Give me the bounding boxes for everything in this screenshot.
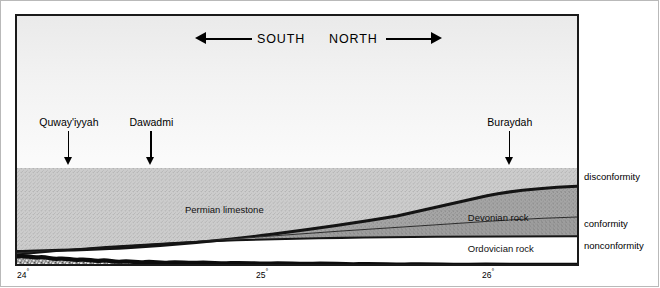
city-label: Buraydah	[487, 116, 532, 128]
unit-label-devonian: Devonian rock	[468, 212, 529, 223]
north-arrow-line	[386, 38, 432, 40]
south-label: SOUTH	[257, 28, 305, 50]
geology-block: Permian limestone Devonian rock Ordovici…	[17, 168, 577, 264]
south-arrow-head-icon	[195, 32, 206, 44]
city-arrow-head-icon	[64, 157, 72, 165]
unit-label-ordovician: Ordovician rock	[468, 243, 534, 254]
longitude-tick-24: 24°	[17, 268, 29, 280]
longitude-tick-26: 26°	[482, 268, 494, 280]
degree-sign: °	[265, 268, 268, 275]
city-arrow-stem	[68, 131, 69, 159]
boundary-label-nonconformity: nonconformity	[584, 240, 644, 251]
degree-sign: °	[491, 268, 494, 275]
unit-label-permian: Permian limestone	[185, 204, 264, 215]
boundary-label-conformity: conformity	[584, 218, 628, 229]
cross-section-figure: SOUTH NORTH Quway'iyyah Dawadmi Buraydah	[15, 14, 579, 266]
city-arrow-head-icon	[146, 157, 154, 165]
compass-row: SOUTH NORTH	[17, 28, 577, 50]
degree-sign: °	[26, 268, 29, 275]
city-arrow-stem	[509, 131, 510, 159]
longitude-tick-25: 25°	[256, 268, 268, 280]
city-arrow-head-icon	[505, 157, 513, 165]
north-arrow-head-icon	[431, 32, 442, 44]
boundary-label-disconformity: disconformity	[584, 171, 640, 182]
north-label: NORTH	[329, 28, 378, 50]
city-label: Quway'iyyah	[39, 116, 98, 128]
south-arrow-line	[206, 38, 252, 40]
city-arrow-stem	[150, 131, 151, 159]
city-label: Dawadmi	[130, 116, 174, 128]
